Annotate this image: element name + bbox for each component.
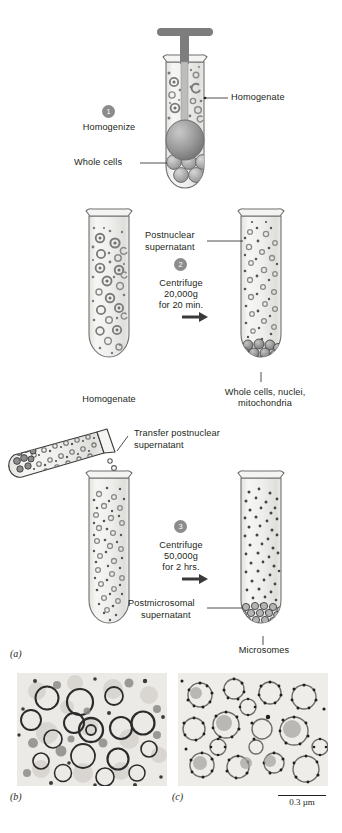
scale-bar-label: 0.3 µm xyxy=(272,797,332,807)
arrow-step3 xyxy=(182,574,208,584)
label-pellet-l1: Whole cells, nuclei, xyxy=(213,387,317,398)
label-postmicrosomal-l2: supernatant xyxy=(141,610,191,621)
step-badge-2: 2 xyxy=(174,258,187,271)
step-badge-3: 3 xyxy=(174,520,187,533)
homogenizer-pestle xyxy=(157,28,213,160)
label-whole-cells: Whole cells xyxy=(74,157,122,168)
panel-label-c: (c) xyxy=(172,791,183,802)
step-2-line-1: Centrifuge xyxy=(143,278,219,289)
step-badge-1: 1 xyxy=(102,105,115,118)
arrow-step2 xyxy=(182,312,208,322)
label-transfer-l2: supernatant xyxy=(134,440,184,451)
pellet-microsomes xyxy=(240,602,284,636)
label-postmicrosomal-l1: Postmicrosomal xyxy=(128,598,195,609)
micrograph-smooth-microsomes xyxy=(17,673,167,786)
step-3-line-1: Centrifuge xyxy=(143,540,219,551)
step-2-line-3: for 20 min. xyxy=(143,300,219,311)
tube-homogenate xyxy=(86,209,132,357)
step-1-label: Homogenize xyxy=(68,122,150,133)
step-3-line-2: 50,000g xyxy=(143,551,219,562)
label-homogenate-callout: Homogenate xyxy=(231,92,285,103)
micrograph-rough-microsomes xyxy=(178,673,328,786)
panel-label-a: (a) xyxy=(10,648,22,659)
label-pellet-l2: mitochondria xyxy=(213,398,317,409)
cell-fractionation-figure: Homogenate Whole cells 1 Homogenize Homo… xyxy=(0,0,342,833)
tube-homogenize xyxy=(157,28,213,188)
tube-microsomes xyxy=(238,471,284,636)
label-transfer-l1: Transfer postnuclear xyxy=(134,428,220,439)
scale-bar-line xyxy=(278,795,326,796)
step-2-line-2: 20,000g xyxy=(143,289,219,300)
step-3-line-3: for 2 hrs. xyxy=(143,562,219,573)
label-postnuclear-l2: supernatant xyxy=(145,242,195,253)
label-postnuclear-l1: Postnuclear xyxy=(145,230,195,241)
label-microsomes: Microsomes xyxy=(225,645,303,656)
label-homogenate-tube: Homogenate xyxy=(70,394,148,405)
tube-postnuclear-supernatant xyxy=(86,471,132,623)
panel-label-b: (b) xyxy=(10,791,22,802)
tube-postnuclear xyxy=(238,209,284,374)
